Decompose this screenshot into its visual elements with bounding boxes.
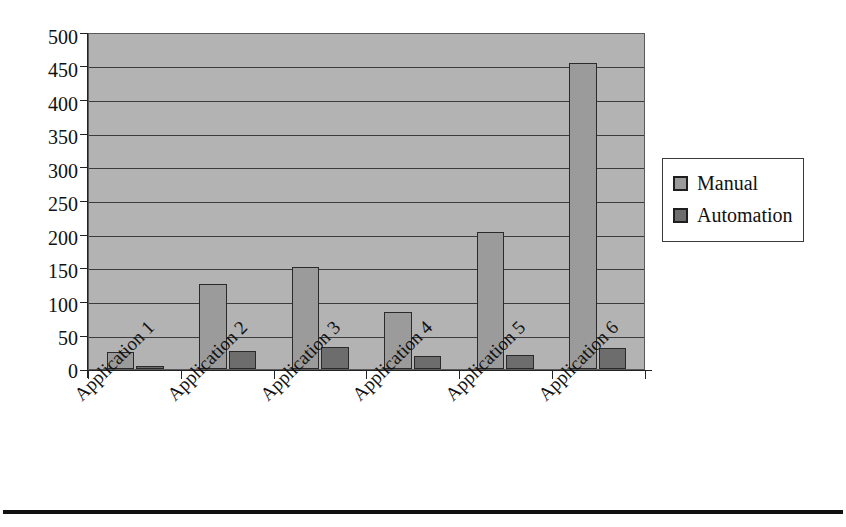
y-tick-label: 500 [8,27,78,47]
y-tick-label: 150 [8,261,78,281]
gridline-150 [89,269,644,270]
y-tick-300: 300 [0,161,78,181]
gridline-100 [89,303,644,304]
y-tick-50: 50 [0,328,78,348]
plot-area [88,33,645,370]
gridline-250 [89,202,644,203]
bottom-rule [3,510,843,514]
y-tick-label: 200 [8,228,78,248]
bar-automation-application-4 [414,356,442,369]
y-tick-label: 450 [8,60,78,80]
legend-swatch-icon [673,176,688,191]
y-tick-0: 0 [0,361,78,381]
y-tick-250: 250 [0,194,78,214]
gridline-200 [89,236,644,237]
y-tick-150: 150 [0,261,78,281]
y-tick-label: 400 [8,94,78,114]
bar-chart-figure: 500 450 400 350 300 250 200 150 100 50 0 [0,0,846,527]
chart-legend: Manual Automation [662,158,804,242]
legend-item-manual: Manual [673,167,793,199]
y-tick-label: 250 [8,194,78,214]
gridline-350 [89,135,644,136]
bar-automation-application-2 [229,351,257,369]
gridline-450 [89,67,644,68]
y-tick-label: 350 [8,127,78,147]
y-tick-400: 400 [0,94,78,114]
gridline-50 [89,337,644,338]
y-tick-label: 50 [8,328,78,348]
y-tick-label: 0 [8,361,78,381]
bar-automation-application-1 [136,366,164,369]
gridline-400 [89,101,644,102]
legend-label: Manual [697,172,758,194]
bar-automation-application-6 [599,348,627,369]
x-tick-mark [645,370,646,379]
y-tick-350: 350 [0,127,78,147]
legend-swatch-icon [673,208,688,223]
y-tick-label: 300 [8,161,78,181]
gridline-300 [89,168,644,169]
y-tick-label: 100 [8,295,78,315]
y-tick-200: 200 [0,228,78,248]
bar-manual-application-6 [569,63,597,369]
y-tick-500: 500 [0,27,78,47]
legend-item-automation: Automation [673,199,793,231]
y-tick-100: 100 [0,295,78,315]
legend-label: Automation [697,204,793,226]
y-tick-450: 450 [0,60,78,80]
bar-automation-application-5 [506,355,534,369]
